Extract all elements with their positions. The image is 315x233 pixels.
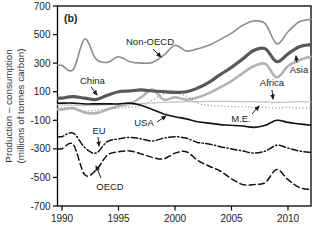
y-tick-label: -300	[30, 143, 50, 154]
annotation-label-asia: Asia	[290, 64, 309, 75]
y-tick-label: -700	[30, 201, 50, 212]
annotation-arrow	[98, 137, 99, 146]
y-axis-title-line2: (millions of tonnes carbon)	[15, 49, 26, 164]
annotation-arrow	[91, 87, 97, 95]
series-group	[58, 20, 311, 190]
plot-frame	[58, 6, 312, 206]
y-axis-title-line1: Production – consumption	[3, 49, 14, 162]
annotation-label-eu: EU	[92, 125, 105, 136]
chart-figure: 700500300100-100-300-500-700199019952000…	[0, 0, 315, 233]
y-tick-label: 100	[34, 86, 51, 97]
y-tick-label: 300	[34, 58, 51, 69]
x-tick-label: 1995	[107, 213, 130, 224]
annotation-arrow	[272, 90, 273, 99]
annotation-arrow	[157, 116, 166, 122]
x-tick-label: 2005	[220, 213, 243, 224]
annotation-label-non-oecd: Non-OECD	[126, 36, 174, 47]
y-tick-label: -100	[30, 115, 50, 126]
y-axis: 700500300100-100-300-500-700	[30, 1, 57, 212]
y-tick-label: 500	[34, 29, 51, 40]
x-tick-label: 2000	[164, 213, 187, 224]
x-tick-label: 1990	[51, 213, 74, 224]
annotation-label-oecd: OECD	[96, 181, 124, 192]
chart-svg: 700500300100-100-300-500-700199019952000…	[0, 0, 315, 233]
series-usa	[58, 103, 311, 127]
x-tick-label: 2010	[277, 213, 300, 224]
annotation-label-m-e-: M.E.	[231, 113, 251, 124]
annotation-arrow	[153, 49, 161, 57]
x-axis: 19901995200020052010	[51, 206, 300, 224]
annotation-label-usa: USA	[134, 117, 154, 128]
y-tick-label: 700	[34, 1, 51, 12]
panel-label: (b)	[64, 12, 77, 24]
annotation-label-china: China	[80, 75, 106, 86]
annotation-label-africa: Africa	[260, 77, 285, 88]
series-non-oecd	[58, 20, 311, 71]
y-tick-label: -500	[30, 172, 50, 183]
